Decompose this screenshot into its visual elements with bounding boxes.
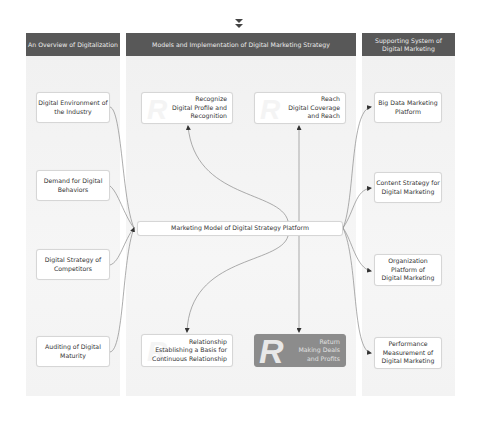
node-big-data-platform: Big Data Marketing Platform	[374, 92, 442, 123]
column-header-label: An Overview of Digitalization	[28, 41, 118, 49]
letter-r-watermark: R	[260, 96, 280, 124]
node-label: Reach Digital Coverage and Reach	[288, 95, 340, 120]
node-demand-digital-behaviors: Demand for Digital Behaviors	[36, 170, 110, 201]
node-organization-platform: Organization Platform of Digital Marketi…	[374, 254, 442, 286]
node-label: Demand for Digital Behaviors	[44, 177, 103, 194]
node-performance-measurement: Performance Measurement of Digital Marke…	[374, 337, 442, 369]
column-header-overview: An Overview of Digitalization	[26, 33, 120, 56]
node-label: Recognize Digital Profile and Recognitio…	[172, 95, 227, 120]
node-relationship: R Relationship Establishing a Basis for …	[141, 334, 233, 367]
node-label: Auditing of Digital Maturity	[45, 343, 101, 360]
node-label: Return Making Deals and Profits	[298, 338, 340, 363]
node-label: Organization Platform of Digital Marketi…	[382, 257, 435, 282]
node-return: R Return Making Deals and Profits	[254, 334, 346, 367]
column-header-label: Supporting System of Digital Marketing	[375, 37, 442, 53]
node-marketing-model-platform: Marketing Model of Digital Strategy Plat…	[137, 221, 343, 236]
column-header-models: Models and Implementation of Digital Mar…	[126, 33, 356, 56]
node-digital-environment: Digital Environment of the Industry	[36, 92, 110, 123]
letter-r-watermark: R	[259, 335, 284, 367]
node-label: Relationship Establishing a Basis for Co…	[152, 338, 227, 363]
node-label: Content Strategy for Digital Marketing	[376, 179, 440, 196]
node-recognize: R Recognize Digital Profile and Recognit…	[141, 92, 233, 124]
node-reach: R Reach Digital Coverage and Reach	[254, 92, 346, 124]
node-content-strategy: Content Strategy for Digital Marketing	[374, 172, 442, 203]
node-label: Big Data Marketing Platform	[378, 99, 437, 116]
node-label: Digital Strategy of Competitors	[45, 256, 101, 273]
column-header-support: Supporting System of Digital Marketing	[362, 33, 455, 56]
node-label: Digital Environment of the Industry	[38, 99, 107, 116]
node-label: Marketing Model of Digital Strategy Plat…	[171, 224, 309, 232]
column-header-label: Models and Implementation of Digital Mar…	[152, 41, 330, 49]
double-chevron-down-icon	[232, 18, 246, 30]
node-label: Performance Measurement of Digital Marke…	[382, 340, 435, 365]
letter-r-watermark: R	[147, 96, 167, 124]
node-auditing-digital-maturity: Auditing of Digital Maturity	[36, 336, 110, 367]
node-digital-strategy-competitors: Digital Strategy of Competitors	[36, 249, 110, 280]
